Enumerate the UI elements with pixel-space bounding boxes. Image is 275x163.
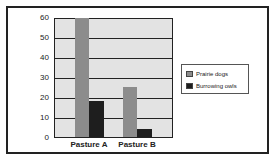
legend-item-burrowing-owls: Burrowing owls	[186, 83, 237, 89]
gridline-50	[55, 38, 172, 39]
y-tick-10: 10	[29, 114, 49, 122]
swatch-burrowing-owls-icon	[186, 83, 193, 89]
bar-prairie-dogs-pasture-a	[75, 18, 89, 137]
y-tick-40: 40	[29, 54, 49, 62]
gridline-20	[55, 98, 172, 99]
plot-area	[54, 18, 173, 138]
x-label-pasture-a: Pasture A	[64, 140, 114, 149]
legend: Prairie dogs Burrowing owls	[181, 64, 249, 94]
gridline-30	[55, 78, 172, 79]
y-tick-30: 30	[29, 74, 49, 82]
bar-burrowing-owls-pasture-a	[89, 101, 104, 137]
y-tick-20: 20	[29, 94, 49, 102]
legend-label: Burrowing owls	[196, 83, 237, 89]
bar-prairie-dogs-pasture-b	[123, 87, 137, 137]
gridline-10	[55, 118, 172, 119]
gridline-40	[55, 58, 172, 59]
x-label-pasture-b: Pasture B	[112, 140, 162, 149]
legend-item-prairie-dogs: Prairie dogs	[186, 71, 228, 77]
swatch-prairie-dogs-icon	[186, 71, 193, 77]
y-tick-60: 60	[29, 14, 49, 22]
bar-burrowing-owls-pasture-b	[137, 129, 152, 137]
y-tick-50: 50	[29, 34, 49, 42]
y-tick-0: 0	[29, 134, 49, 142]
legend-label: Prairie dogs	[196, 71, 228, 77]
